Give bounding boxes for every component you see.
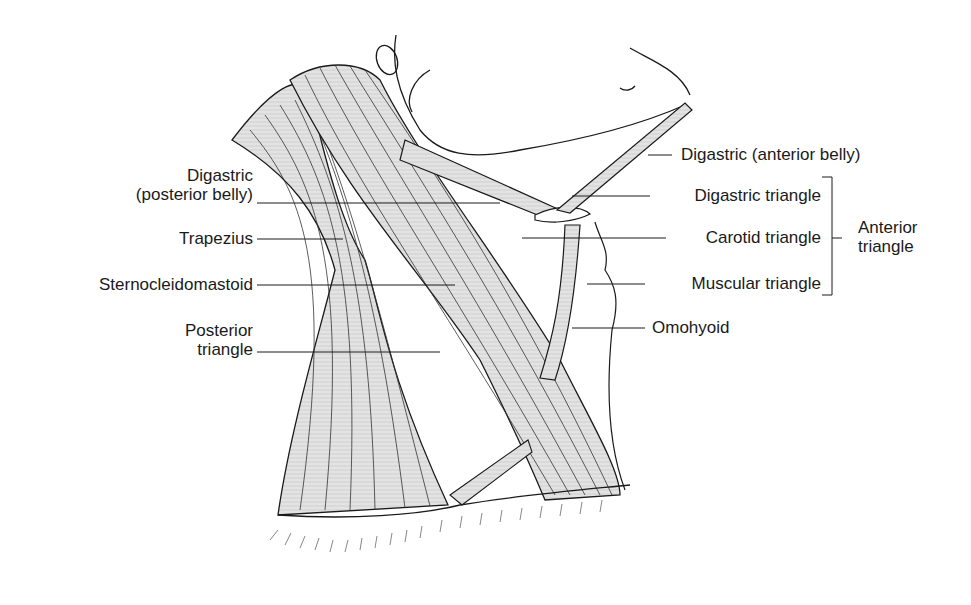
anterior-triangle-bracket bbox=[822, 177, 842, 295]
label-muscular-triangle: Muscular triangle bbox=[692, 274, 821, 293]
label-digastric-posterior-belly: Digastric (posterior belly) bbox=[136, 166, 253, 204]
label-line: Digastric (anterior belly) bbox=[681, 145, 861, 164]
label-line: Anterior bbox=[858, 218, 918, 237]
label-line: Omohyoid bbox=[652, 318, 729, 337]
label-line: Digastric triangle bbox=[694, 186, 821, 205]
label-carotid-triangle: Carotid triangle bbox=[706, 228, 821, 247]
label-digastric-anterior-belly: Digastric (anterior belly) bbox=[681, 145, 861, 164]
label-line: Carotid triangle bbox=[706, 228, 821, 247]
head-outline bbox=[372, 35, 690, 155]
neck-anatomy-illustration bbox=[0, 0, 971, 605]
label-trapezius: Trapezius bbox=[179, 229, 253, 248]
label-omohyoid: Omohyoid bbox=[652, 318, 729, 337]
label-line: Digastric bbox=[136, 166, 253, 185]
label-line: Posterior bbox=[185, 321, 253, 340]
label-line: triangle bbox=[185, 340, 253, 359]
neck-triangles-diagram: Digastric (posterior belly) Trapezius St… bbox=[0, 0, 971, 605]
label-line: triangle bbox=[858, 237, 918, 256]
label-posterior-triangle: Posterior triangle bbox=[185, 321, 253, 359]
omohyoid-muscle bbox=[540, 225, 580, 380]
label-line: Sternocleidomastoid bbox=[99, 275, 253, 294]
label-line: Muscular triangle bbox=[692, 274, 821, 293]
omohyoid-inferior-belly bbox=[450, 440, 532, 505]
label-digastric-triangle: Digastric triangle bbox=[694, 186, 821, 205]
label-line: Trapezius bbox=[179, 229, 253, 248]
label-sternocleidomastoid: Sternocleidomastoid bbox=[99, 275, 253, 294]
label-anterior-triangle: Anterior triangle bbox=[858, 218, 918, 256]
label-line: (posterior belly) bbox=[136, 185, 253, 204]
